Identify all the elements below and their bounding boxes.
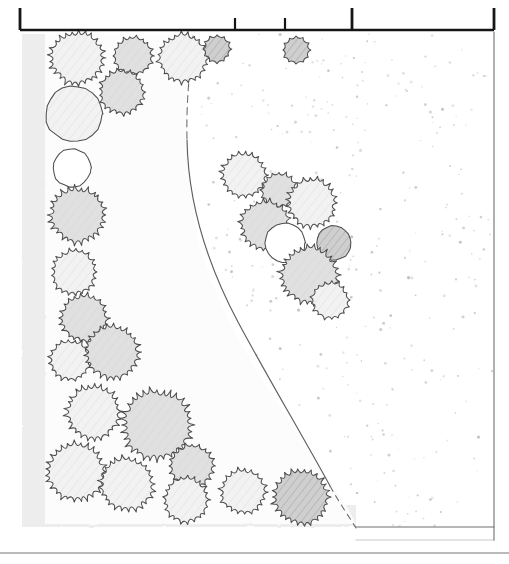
stipple-dot xyxy=(469,216,470,217)
stipple-dot xyxy=(374,41,376,43)
stipple-dot xyxy=(386,404,387,405)
stipple-dot xyxy=(391,59,392,60)
stipple-dot xyxy=(407,513,409,515)
stipple-dot xyxy=(459,241,462,244)
stipple-dot xyxy=(468,277,469,278)
stipple-dot xyxy=(410,80,413,83)
stipple-dot xyxy=(489,233,491,235)
stipple-dot xyxy=(455,218,457,220)
stipple-dot xyxy=(431,34,434,37)
stipple-dot xyxy=(384,362,387,365)
stipple-dot xyxy=(372,438,374,440)
stipple-dot xyxy=(421,86,423,88)
stipple-dot xyxy=(457,501,458,502)
stipple-dot xyxy=(409,187,411,189)
stipple-dot xyxy=(368,34,369,35)
stipple-dot xyxy=(434,524,436,526)
stipple-dot xyxy=(487,219,489,221)
stipple-dot xyxy=(379,208,382,211)
stipple-dot xyxy=(465,124,466,125)
stipple-dot xyxy=(479,258,481,260)
stipple-dot xyxy=(420,140,422,142)
stipple-dot xyxy=(461,49,462,50)
stipple-dot xyxy=(448,234,451,237)
stipple-dot xyxy=(377,481,378,482)
stipple-dot xyxy=(378,272,380,274)
stipple-dot xyxy=(379,289,382,292)
stipple-dot xyxy=(371,436,373,438)
stipple-dot xyxy=(446,440,448,442)
stipple-dot xyxy=(357,84,359,86)
stipple-dot xyxy=(362,80,364,82)
stipple-dot xyxy=(436,132,438,134)
stipple-dot xyxy=(391,434,393,436)
stipple-dot xyxy=(391,388,394,391)
stipple-dot xyxy=(415,511,417,513)
stipple-dot xyxy=(383,472,385,474)
stipple-dot xyxy=(429,317,431,319)
stipple-dot xyxy=(483,248,485,250)
stipple-dot xyxy=(459,174,460,175)
stipple-dot xyxy=(477,72,479,74)
stipple-dot xyxy=(386,74,389,77)
stipple-dot xyxy=(366,40,368,42)
stipple-dot xyxy=(445,207,447,209)
stipple-dot xyxy=(442,233,444,235)
stipple-dot xyxy=(382,322,385,325)
stipple-dot xyxy=(491,370,493,372)
stipple-dot xyxy=(434,65,436,67)
stipple-dot xyxy=(414,186,417,189)
stipple-dot xyxy=(397,83,399,85)
stipple-dot xyxy=(404,357,406,359)
stipple-dot xyxy=(429,111,432,114)
stipple-dot xyxy=(389,327,391,329)
stipple-dot xyxy=(402,72,405,75)
stipple-dot xyxy=(366,425,368,427)
stipple-dot xyxy=(394,485,396,487)
stipple-dot xyxy=(409,250,411,252)
stipple-dot xyxy=(455,278,457,280)
stipple-dot xyxy=(410,277,413,280)
stipple-dot xyxy=(364,130,365,131)
stipple-dot xyxy=(424,381,427,384)
stipple-dot xyxy=(361,71,363,73)
stipple-dot xyxy=(387,453,390,456)
stipple-dot xyxy=(474,312,476,314)
stipple-dot xyxy=(471,253,473,255)
stipple-dot xyxy=(404,257,406,259)
site-plan-drawing xyxy=(0,0,509,564)
stipple-dot xyxy=(356,175,357,176)
stipple-dot xyxy=(359,399,362,402)
stipple-dot xyxy=(449,165,451,167)
stipple-dot xyxy=(406,90,408,92)
stipple-dot xyxy=(398,449,399,450)
stipple-dot xyxy=(361,360,363,362)
stipple-dot xyxy=(485,75,487,77)
stipple-dot xyxy=(465,401,467,403)
stipple-dot xyxy=(462,226,465,229)
stipple-dot xyxy=(402,171,405,174)
stipple-dot xyxy=(404,521,405,522)
stipple-dot xyxy=(470,109,472,111)
stipple-dot xyxy=(452,104,455,107)
stipple-dot xyxy=(392,470,395,473)
stipple-dot xyxy=(473,458,475,460)
stipple-dot xyxy=(423,457,424,458)
stipple-dot xyxy=(364,62,365,63)
stipple-dot xyxy=(441,108,444,111)
stipple-dot xyxy=(477,436,480,439)
stipple-dot xyxy=(461,315,464,318)
stipple-dot xyxy=(424,103,427,106)
stipple-dot xyxy=(357,142,359,144)
stipple-dot xyxy=(439,126,441,128)
stipple-dot xyxy=(431,116,433,118)
stipple-dot xyxy=(377,423,378,424)
stipple-dot xyxy=(370,454,372,456)
stipple-dot xyxy=(374,501,376,503)
stipple-dot xyxy=(382,433,385,436)
stipple-dot xyxy=(474,279,476,281)
stipple-dot xyxy=(455,412,457,414)
stipple-dot xyxy=(392,524,394,526)
stipple-dot xyxy=(382,430,384,432)
stipple-dot xyxy=(423,359,425,361)
